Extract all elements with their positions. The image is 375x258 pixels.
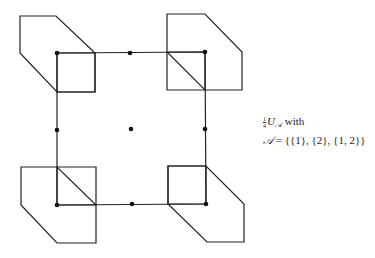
- lattice-dot: [128, 51, 133, 56]
- subscript-a: 𝒜: [275, 121, 282, 129]
- symbol-u: U: [267, 115, 275, 127]
- lattice-dot: [203, 127, 208, 132]
- lattice-dot: [55, 203, 60, 208]
- set-definition: = {{1}, {2}, {1, 2}}: [273, 134, 365, 146]
- lattice-dot: [55, 128, 60, 133]
- fraction-one-quarter: 14: [263, 116, 266, 129]
- inner-square: [57, 53, 95, 92]
- lattice-dot: [203, 50, 208, 55]
- lattice-dot: [204, 202, 209, 207]
- lattice-dot: [55, 51, 60, 56]
- with-label: with: [282, 115, 304, 127]
- set-symbol: 𝒜: [263, 134, 273, 147]
- lattice-dot: [130, 202, 135, 207]
- caption-line-1: 14U𝒜 with: [263, 114, 365, 133]
- caption-line-2: 𝒜 = {{1}, {2}, {1, 2}}: [263, 133, 365, 148]
- figure-caption: 14U𝒜 with 𝒜 = {{1}, {2}, {1, 2}}: [263, 114, 365, 148]
- inner-square: [168, 166, 206, 204]
- lattice-dot: [129, 127, 134, 132]
